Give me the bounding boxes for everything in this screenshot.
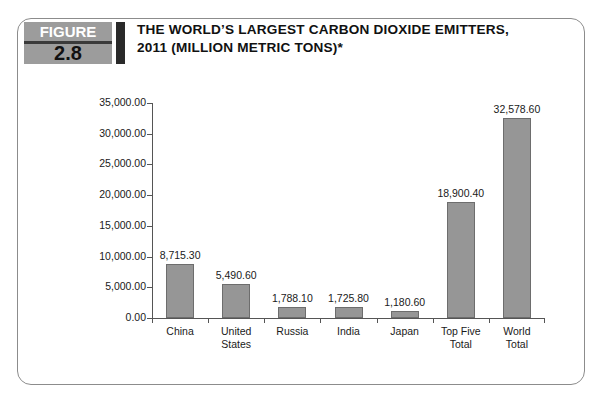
x-axis-category-label: Top FiveTotal: [433, 325, 489, 350]
y-axis-tick: [147, 195, 152, 196]
x-axis-category-label-line: Total: [433, 338, 489, 351]
bar-top-five-total: [447, 202, 475, 318]
y-axis-tick: [147, 164, 152, 165]
x-axis-category-label-line: Russia: [264, 325, 320, 338]
bar-chart: 35,000.0030,000.0025,000.0020,000.0015,0…: [17, 18, 585, 385]
x-axis-category-label-line: United: [208, 325, 264, 338]
bar-value-label: 1,180.60: [362, 296, 448, 308]
y-axis-labels: 35,000.0030,000.0025,000.0020,000.0015,0…: [66, 103, 146, 319]
bar-value-label: 8,715.30: [137, 249, 223, 261]
bar-value-label: 32,578.60: [474, 103, 560, 115]
y-axis-tick: [147, 134, 152, 135]
x-axis-category-label-line: Japan: [377, 325, 433, 338]
bar-russia: [278, 307, 306, 318]
bar-united-states: [222, 284, 250, 318]
y-axis-tick-label: 5,000.00: [66, 280, 146, 292]
x-axis-category-label: WorldTotal: [489, 325, 545, 350]
x-axis-category-label-line: World: [489, 325, 545, 338]
x-axis-category-label-line: States: [208, 338, 264, 351]
x-axis-tick: [544, 318, 545, 323]
x-axis-tick: [433, 318, 434, 323]
bar-value-label: 18,900.40: [418, 187, 504, 199]
x-axis-category-label: UnitedStates: [208, 325, 264, 350]
x-axis-category-label-line: India: [320, 325, 376, 338]
bar-world-total: [503, 118, 531, 318]
bar-india: [335, 307, 363, 318]
y-axis-tick-label: 25,000.00: [66, 157, 146, 169]
x-axis-tick: [264, 318, 265, 323]
x-axis-tick: [152, 318, 153, 323]
x-axis-category-label: China: [152, 325, 208, 338]
x-axis-category-label-line: China: [152, 325, 208, 338]
x-axis-category-label-line: Total: [489, 338, 545, 351]
x-axis-category-label-line: Top Five: [433, 325, 489, 338]
y-axis-tick-label: 0.00: [66, 311, 146, 323]
y-axis-tick: [147, 226, 152, 227]
x-axis-tick: [208, 318, 209, 323]
x-axis-line: [152, 318, 545, 319]
y-axis-tick-label: 35,000.00: [66, 96, 146, 108]
y-axis-tick-label: 20,000.00: [66, 188, 146, 200]
x-axis-tick: [377, 318, 378, 323]
x-axis-category-label: India: [320, 325, 376, 338]
x-axis-tick: [320, 318, 321, 323]
plot-area: 8,715.30China5,490.60UnitedStates1,788.1…: [152, 103, 545, 318]
bar-china: [166, 264, 194, 318]
x-axis-category-label: Japan: [377, 325, 433, 338]
bar-value-label: 5,490.60: [193, 269, 279, 281]
y-axis-tick: [147, 287, 152, 288]
y-axis-tick-label: 30,000.00: [66, 127, 146, 139]
y-axis-tick-label: 15,000.00: [66, 219, 146, 231]
y-axis-line: [152, 103, 153, 319]
bar-japan: [391, 311, 419, 318]
y-axis-tick: [147, 103, 152, 104]
y-axis-tick-label: 10,000.00: [66, 250, 146, 262]
x-axis-tick: [489, 318, 490, 323]
figure-page: FIGURE 2.8 THE WORLD’S LARGEST CARBON DI…: [0, 0, 602, 398]
x-axis-category-label: Russia: [264, 325, 320, 338]
